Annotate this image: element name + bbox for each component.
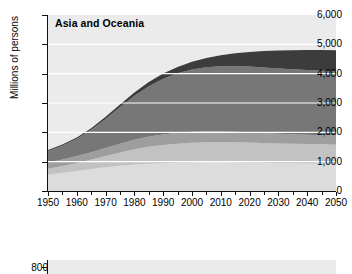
x-tick-mark-major: [134, 192, 135, 196]
chart-title: Asia and Oceania: [55, 17, 144, 29]
x-tick-mark-minor: [293, 192, 294, 195]
plot-area: [48, 15, 336, 191]
x-tick-label: 2050: [316, 197, 352, 208]
x-tick-mark-minor: [62, 192, 63, 195]
y-tick-mark: [42, 44, 48, 45]
y-tick-label: 1,000: [302, 156, 342, 167]
y-tick-mark: [42, 74, 48, 75]
x-tick-mark-minor: [91, 192, 92, 195]
x-tick-mark-minor: [206, 192, 207, 195]
y-tick-label: 2,000: [302, 126, 342, 137]
y-tick-mark: [42, 15, 48, 16]
y-tick-label: 5,000: [302, 38, 342, 49]
x-tick-mark-minor: [322, 192, 323, 195]
x-tick-mark-major: [336, 192, 337, 196]
x-tick-mark-major: [278, 192, 279, 196]
y-tick-mark: [42, 132, 48, 133]
chart-partial-below: [0, 252, 342, 274]
x-tick-mark-major: [48, 192, 49, 196]
x-tick-mark-minor: [264, 192, 265, 195]
x-tick-mark-major: [192, 192, 193, 196]
chart-asia-and-oceania: Millions of persons 01,0002,0003,0004,00…: [0, 0, 342, 222]
x-tick-mark-major: [221, 192, 222, 196]
y-axis-title: Millions of persons: [9, 0, 20, 123]
x-tick-mark-minor: [235, 192, 236, 195]
plot-area-partial: [48, 260, 336, 274]
x-tick-mark-major: [250, 192, 251, 196]
x-tick-mark-major: [77, 192, 78, 196]
y-tick-label: 6,000: [302, 9, 342, 20]
x-tick-mark-major: [307, 192, 308, 196]
x-tick-mark-major: [163, 192, 164, 196]
x-tick-mark-major: [106, 192, 107, 196]
x-tick-mark-minor: [178, 192, 179, 195]
y-tick-label: 4,000: [302, 68, 342, 79]
stacked-area-svg: [48, 15, 336, 191]
x-tick-mark-minor: [149, 192, 150, 195]
y-tick-mark-partial: [42, 267, 48, 268]
x-tick-mark-minor: [120, 192, 121, 195]
y-tick-label: 3,000: [302, 97, 342, 108]
y-tick-mark: [42, 103, 48, 104]
y-tick-mark: [42, 162, 48, 163]
